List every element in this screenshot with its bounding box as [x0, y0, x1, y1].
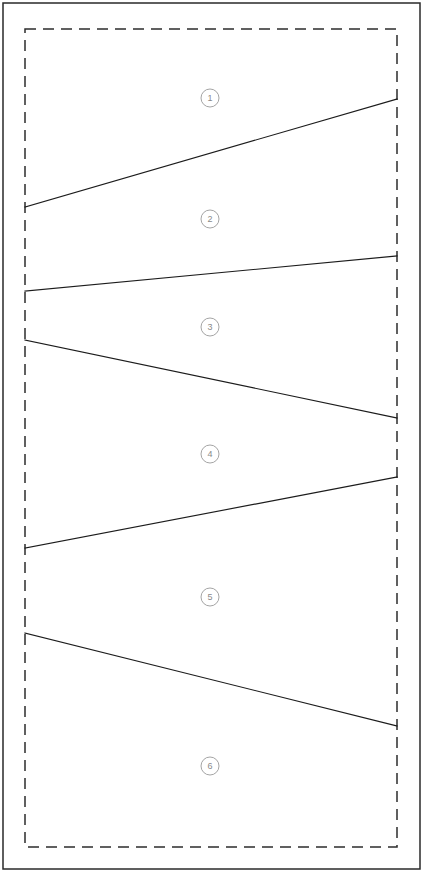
outer-frame [3, 3, 420, 869]
sectional-zone-diagram: 1 2 3 4 5 6 [0, 0, 423, 880]
division-line-3 [25, 340, 397, 418]
zone-callout-1[interactable]: 1 [201, 89, 219, 107]
zone-callout-6[interactable]: 6 [201, 757, 219, 775]
zone-callout-2[interactable]: 2 [201, 210, 219, 228]
callout-label: 6 [207, 761, 212, 771]
division-line-2 [25, 256, 397, 291]
division-line-1 [25, 99, 397, 207]
division-line-5 [25, 633, 397, 726]
callout-label: 1 [207, 93, 212, 103]
callout-label: 3 [207, 322, 212, 332]
diagram-canvas: 1 2 3 4 5 6 [0, 0, 423, 880]
callout-label: 4 [207, 449, 212, 459]
zone-callout-3[interactable]: 3 [201, 318, 219, 336]
callout-label: 5 [207, 592, 212, 602]
zone-callout-5[interactable]: 5 [201, 588, 219, 606]
callout-label: 2 [207, 214, 212, 224]
zone-callouts-group: 1 2 3 4 5 6 [201, 89, 219, 775]
division-lines-group [25, 99, 397, 726]
zone-callout-4[interactable]: 4 [201, 445, 219, 463]
dashed-boundary [25, 29, 397, 847]
division-line-4 [25, 477, 397, 548]
